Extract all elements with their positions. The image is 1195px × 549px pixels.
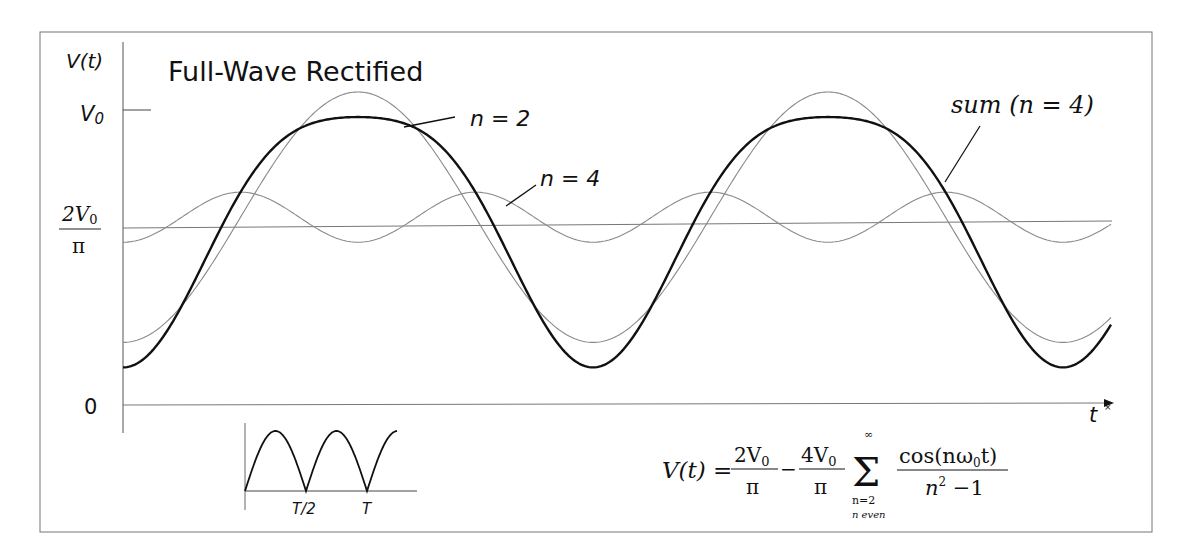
x-axis-label: t [1089, 403, 1098, 427]
svg-text:n2 −1: n2 −1 [925, 475, 984, 500]
svg-text:2V0: 2V0 [61, 202, 97, 227]
n2-annotation: n = 2 [470, 106, 530, 131]
svg-text:4V0: 4V0 [801, 443, 836, 469]
svg-text:cos(nω0t): cos(nω0t) [899, 444, 997, 470]
inset-tick-half-period: T/2 [292, 500, 316, 518]
svg-text:n even: n even [852, 509, 886, 520]
svg-text:V(t) =: V(t) = [662, 457, 732, 483]
svg-text:π: π [746, 475, 759, 499]
svg-text:∞: ∞ [864, 428, 873, 441]
inset-waveform: T/2 T [245, 423, 417, 518]
avg-tick-label: 2V0 π [59, 202, 101, 258]
full-wave-rectified-figure: Full-Wave Rectified V(t) V0 2V0 π 0 t × … [0, 0, 1195, 549]
fourier-series-formula: V(t) = 2V0 π − 4V0 π ∞ Σ n=2 n even cos(… [662, 428, 1008, 520]
sum-leader-line [945, 126, 980, 182]
zero-tick-label: 0 [84, 395, 97, 419]
x-axis [123, 403, 1106, 405]
inset-tick-period: T [362, 500, 373, 518]
chart-title: Full-Wave Rectified [168, 56, 423, 87]
sum-annotation: sum (n = 4) [951, 91, 1094, 119]
svg-text:π: π [72, 234, 85, 258]
n4-leader-line [506, 185, 536, 206]
svg-text:Σ: Σ [852, 449, 880, 495]
svg-text:−: − [780, 457, 797, 481]
v0-tick-label: V0 [80, 102, 104, 128]
harmonic-n4-curve [123, 192, 1111, 242]
harmonic-n2-curve [123, 92, 1111, 342]
svg-text:π: π [814, 475, 827, 499]
inset-rectified-curve [245, 431, 397, 491]
y-axis-label: V(t) [66, 49, 103, 73]
x-axis-marker: × [1104, 402, 1112, 412]
svg-text:2V0: 2V0 [734, 443, 769, 469]
n4-annotation: n = 4 [540, 166, 600, 191]
svg-text:n=2: n=2 [852, 494, 875, 507]
